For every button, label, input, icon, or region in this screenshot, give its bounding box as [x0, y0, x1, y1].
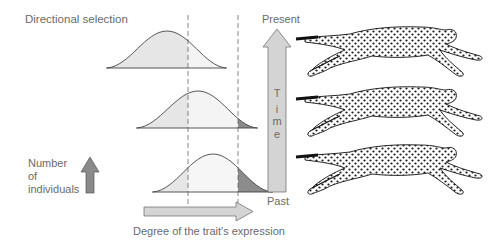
time-label-present: Present [262, 14, 300, 25]
y-axis-label-line2: of [28, 171, 37, 182]
cheetah-top-illustration [296, 27, 482, 76]
time-letter-t: T [272, 88, 282, 99]
right-arrow-icon [144, 202, 253, 221]
y-axis-label-line1: Number [28, 158, 67, 169]
x-axis-label: Degree of the trait's expression [133, 226, 285, 237]
time-letter-e: e [272, 129, 282, 140]
time-letter-i: i [272, 104, 282, 115]
cheetah-bottom-illustration [296, 145, 482, 194]
time-label-past: Past [267, 196, 289, 207]
y-axis-label-line3: individuals [28, 184, 79, 195]
cheetah-middle-illustration [296, 87, 482, 136]
time-letter-m: m [272, 116, 282, 127]
selection-diagram [0, 0, 499, 243]
up-arrow-icon [81, 157, 99, 193]
